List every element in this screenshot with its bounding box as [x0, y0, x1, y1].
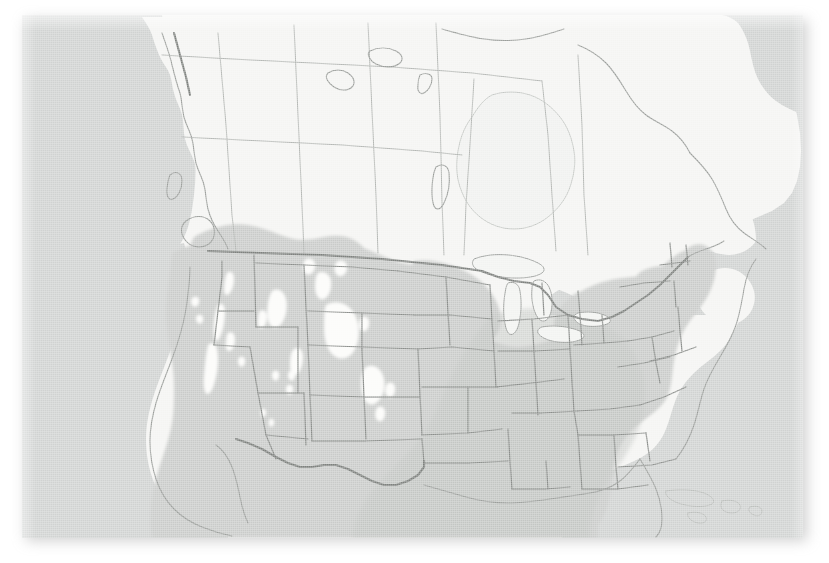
- screenshot-root: [0, 0, 829, 563]
- range-map-figure: [22, 15, 803, 538]
- range-map-svg: [22, 15, 803, 538]
